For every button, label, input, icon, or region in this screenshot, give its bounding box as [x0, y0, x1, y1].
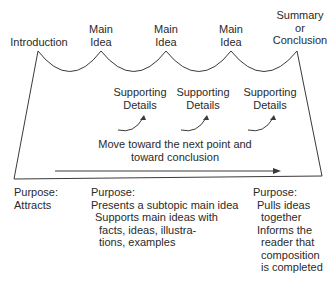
purpose-conclusion: Purpose: Pulls ideas together Informs th… — [253, 186, 323, 274]
details-text: Details — [171, 99, 235, 112]
purpose-line: is completed — [253, 261, 323, 274]
purpose-title: Purpose: — [253, 186, 323, 199]
label-main-idea-2: Main Idea — [151, 23, 181, 48]
supporting-details-2: Supporting Details — [171, 86, 235, 111]
supporting-text: Supporting — [171, 86, 235, 99]
purpose-line: Presents a subtopic main idea — [91, 199, 238, 212]
idea-text: Idea — [216, 36, 246, 49]
purpose-body: Purpose: Presents a subtopic main idea S… — [91, 186, 238, 249]
purpose-line: Attracts — [14, 199, 58, 212]
introduction-text: Introduction — [10, 36, 67, 48]
details-text: Details — [238, 99, 302, 112]
move-line-1: Move toward the next point and — [70, 138, 280, 151]
main-text: Main — [216, 23, 246, 36]
purpose-line: composition — [253, 249, 323, 262]
main-text: Main — [151, 23, 181, 36]
move-toward-text: Move toward the next point and toward co… — [70, 138, 280, 163]
or-text: or — [268, 22, 332, 35]
conclusion-text: Conclusion — [268, 34, 332, 47]
purpose-line: reader that — [253, 236, 323, 249]
purpose-title: Purpose: — [14, 186, 58, 199]
purpose-line: together — [253, 211, 323, 224]
purpose-line: Informs the — [253, 224, 323, 237]
details-text: Details — [108, 99, 172, 112]
main-text: Main — [86, 23, 116, 36]
label-main-idea-1: Main Idea — [86, 23, 116, 48]
summary-text: Summary — [268, 9, 332, 22]
purpose-line: facts, ideas, illustra- — [91, 224, 238, 237]
idea-text: Idea — [151, 36, 181, 49]
supporting-details-3: Supporting Details — [238, 86, 302, 111]
purpose-introduction: Purpose: Attracts — [14, 186, 58, 211]
purpose-line: Pulls ideas — [253, 199, 323, 212]
move-line-2: toward conclusion — [70, 151, 280, 164]
supporting-details-1: Supporting Details — [108, 86, 172, 111]
label-main-idea-3: Main Idea — [216, 23, 246, 48]
supporting-text: Supporting — [108, 86, 172, 99]
label-introduction: Introduction — [4, 36, 74, 49]
supporting-text: Supporting — [238, 86, 302, 99]
purpose-line: tions, examples — [91, 236, 238, 249]
label-conclusion: Summary or Conclusion — [268, 9, 332, 47]
purpose-line: Supports main ideas with — [91, 211, 238, 224]
idea-text: Idea — [86, 36, 116, 49]
purpose-title: Purpose: — [91, 186, 238, 199]
